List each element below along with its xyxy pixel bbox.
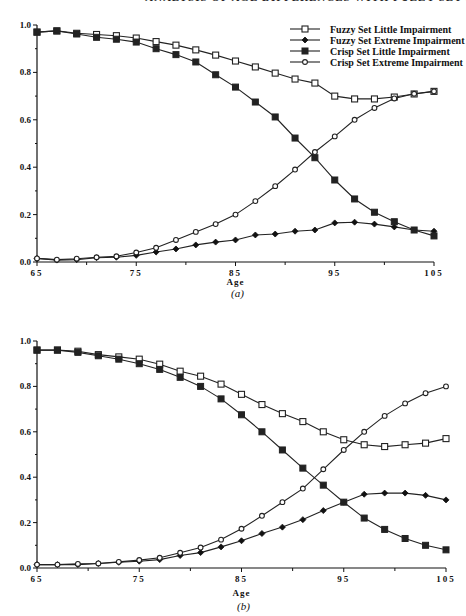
data-point [279, 411, 285, 417]
data-point [352, 196, 358, 202]
series-line [37, 91, 434, 259]
y-tick-label: 0.8 [20, 67, 32, 77]
data-point [193, 230, 198, 235]
data-point [352, 117, 357, 122]
data-point [300, 465, 306, 471]
data-point [177, 374, 183, 380]
y-tick-label: 0.8 [20, 381, 32, 391]
data-point [94, 34, 100, 40]
data-point [292, 76, 298, 82]
legend-marker [302, 37, 308, 43]
data-point [432, 89, 437, 94]
y-tick-label: 1.0 [20, 20, 32, 30]
data-point [371, 96, 377, 102]
data-point [178, 550, 183, 555]
data-point [213, 239, 219, 245]
data-point [423, 391, 428, 396]
legend-marker [302, 48, 308, 54]
data-point [54, 28, 60, 34]
data-point [293, 167, 298, 172]
data-point [173, 52, 179, 58]
data-point [382, 414, 387, 419]
x-tick-label: 95 [328, 268, 341, 278]
data-point [423, 492, 429, 498]
data-point [352, 96, 358, 102]
x-tick-label: 95 [337, 574, 350, 584]
data-point [279, 447, 285, 453]
data-point [233, 58, 239, 64]
data-point [136, 361, 142, 367]
data-point [252, 232, 258, 238]
x-tick-label: 105 [424, 268, 444, 278]
data-point [423, 440, 429, 446]
data-point [361, 442, 367, 448]
series-line [37, 350, 446, 447]
data-point [239, 391, 245, 397]
data-point [252, 64, 258, 70]
data-point [361, 515, 367, 521]
data-point [177, 368, 183, 374]
data-point [321, 467, 326, 472]
data-point [116, 559, 121, 564]
data-point [382, 444, 388, 450]
data-point [157, 555, 162, 560]
y-tick-label: 1.0 [20, 336, 32, 346]
x-tick-label: 75 [133, 574, 146, 584]
data-point [403, 401, 408, 406]
data-point [193, 242, 199, 248]
data-point [75, 349, 81, 355]
legend-label: Crisp Set Extreme Impairment [330, 57, 464, 68]
data-point [371, 221, 377, 227]
data-point [239, 526, 244, 531]
data-point [300, 517, 306, 523]
data-point [332, 93, 338, 99]
data-point [423, 542, 429, 548]
data-point [332, 220, 338, 226]
y-tick-label: 0.6 [20, 427, 32, 437]
legend-marker [302, 26, 308, 32]
data-point [352, 219, 358, 225]
data-point [219, 537, 224, 542]
data-point [193, 59, 199, 65]
data-point [34, 347, 40, 353]
data-point [313, 150, 318, 155]
data-point [35, 562, 40, 567]
data-point [35, 256, 40, 261]
data-point [300, 486, 305, 491]
x-tick-label: 75 [130, 268, 143, 278]
data-point [382, 526, 388, 532]
data-point [252, 99, 258, 105]
series-fuzzy-set-little-impairment [34, 347, 449, 449]
data-point [54, 257, 59, 262]
data-point [198, 383, 204, 389]
data-point [113, 36, 119, 42]
data-point [292, 228, 298, 234]
data-point [272, 114, 278, 120]
data-point [34, 29, 40, 35]
data-point [174, 238, 179, 243]
chart-a: 0.00.20.40.60.81.065758595105Age(a)Fuzzy… [20, 20, 465, 300]
data-point [198, 373, 204, 379]
data-point [402, 490, 408, 496]
data-point [332, 134, 337, 139]
data-point [116, 356, 122, 362]
panel-caption: (a) [231, 287, 244, 300]
data-point [96, 561, 101, 566]
x-tick-label: 65 [31, 268, 44, 278]
data-point [362, 429, 367, 434]
data-point [312, 155, 318, 161]
data-point [198, 545, 203, 550]
y-tick-label: 0.2 [20, 518, 32, 528]
data-point [157, 366, 163, 372]
data-point [233, 84, 239, 90]
data-point [134, 250, 139, 255]
data-point [272, 231, 278, 237]
y-tick-label: 0.0 [20, 257, 32, 267]
data-point [114, 254, 119, 259]
data-point [341, 499, 347, 505]
data-point [444, 384, 449, 389]
x-tick-label: 85 [235, 574, 248, 584]
legend-label: Fuzzy Set Little Impairment [330, 24, 452, 35]
data-point [54, 347, 60, 353]
data-point [361, 491, 367, 497]
